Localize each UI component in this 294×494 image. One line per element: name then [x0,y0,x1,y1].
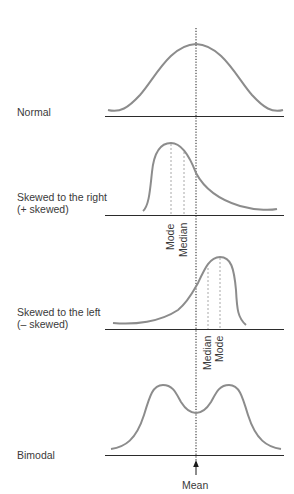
label-skewed-left-line1: Skewed to the left [17,306,100,318]
label-bimodal: Bimodal [17,449,55,461]
curve-skewed-right [143,143,277,211]
label-skewed-left: Skewed to the left (– skewed) [17,306,100,330]
mean-arrow-icon [193,460,199,475]
label-skewed-right-line2: (+ skewed) [17,203,107,215]
label-skewed-right-line1: Skewed to the right [17,191,107,203]
marker-label-mode-left: Mode [214,336,225,362]
distribution-diagram [0,0,294,494]
label-bimodal-line1: Bimodal [17,449,55,461]
marker-label-median-right: Median [178,223,189,257]
label-skewed-right: Skewed to the right (+ skewed) [17,191,107,215]
panel-skewed-right [105,143,284,216]
label-normal-line1: Normal [17,106,51,118]
curve-bimodal [111,385,281,449]
label-skewed-left-line2: (– skewed) [17,318,100,330]
curve-skewed-left [113,257,246,325]
mean-label: Mean [182,479,208,491]
label-normal: Normal [17,106,51,118]
marker-label-mode-right: Mode [165,224,176,250]
panel-normal [105,44,284,117]
panel-skewed-left [105,257,284,330]
panel-bimodal [105,385,284,456]
marker-label-median-left: Median [202,336,213,370]
